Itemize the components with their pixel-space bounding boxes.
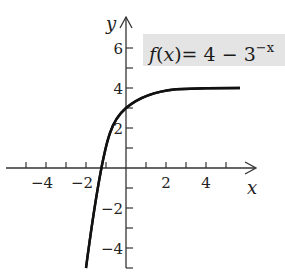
y-ticks xyxy=(126,48,133,268)
y-tick-label: −2 xyxy=(101,200,123,218)
y-tick-label: 4 xyxy=(113,80,123,98)
formula-f: f xyxy=(149,43,156,65)
chart: −4 −2 2 4 6 4 2 −2 −4 x y f(x)= 4 − 3−x xyxy=(0,0,285,273)
x-tick-label: 4 xyxy=(201,174,211,192)
y-tick-label: −4 xyxy=(101,240,123,258)
x-axis-label: x xyxy=(247,177,257,198)
y-axis-label: y xyxy=(105,13,117,34)
x-tick-label: −4 xyxy=(31,174,53,192)
formula-exponent: −x xyxy=(256,40,274,55)
formula-arg: (x) xyxy=(156,43,182,65)
x-tick-label: 2 xyxy=(161,174,171,192)
y-tick-label: 6 xyxy=(113,40,123,58)
x-tick-label: −2 xyxy=(71,174,93,192)
formula-body: = 4 − 3 xyxy=(182,43,256,65)
function-annotation: f(x)= 4 − 3−x xyxy=(143,34,285,66)
